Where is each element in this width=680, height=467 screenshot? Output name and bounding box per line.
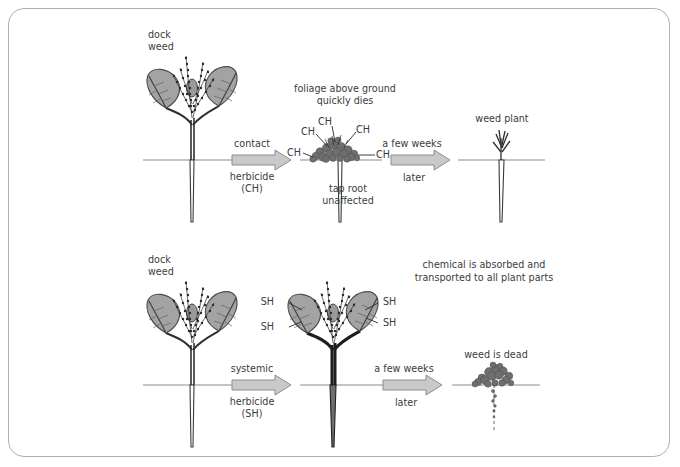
systemic-arrow-1 [232,375,291,395]
contact-stage-2-note-line2: unaffected [322,195,374,206]
contact-stage-3-caption-line1: weed plant [475,113,529,124]
tap-root [499,160,504,222]
contact-arrow-2-below: later [403,172,425,183]
figure-canvas: dock weed contact herbicide (CH) [0,0,680,467]
contact-arrow-1-below-2: (CH) [241,183,262,194]
contact-stage-2-plant [300,126,382,222]
systemic-stage-1-plant [143,281,243,447]
ch-label-top: CH [318,116,332,127]
systemic-arrow-1-above: systemic [231,363,274,374]
contact-arrow-1-above: contact [234,138,270,149]
contact-stage-2-note-line1: tap root [329,183,367,194]
tap-root [190,385,194,447]
contact-stage-1-plant [143,56,243,222]
branch-left [166,108,192,125]
contact-arrow-1 [232,150,291,170]
dead-weed-clump [472,362,514,387]
shrivelled-root [491,385,496,432]
systemic-stage-3-plant [452,362,540,432]
tap-root-treated [330,385,336,447]
sh-label-right-lower: SH [383,317,396,328]
ch-label-upper-right: CH [356,124,370,135]
tap-root [190,160,194,222]
systemic-stage-2-caption-line1: chemical is absorbed and [423,259,546,270]
systemic-arrow-2 [383,375,442,395]
contact-arrow-1-below-1: herbicide [230,171,275,182]
contact-stage-2-caption-line1: foliage above ground [294,83,396,94]
sh-label-left-lower: SH [261,321,274,332]
systemic-stage-3-caption: weed is dead [464,349,527,360]
contact-arrow-2 [391,150,450,170]
sh-label-right-upper: SH [383,296,396,307]
systemic-arrow-2-below: later [395,397,417,408]
systemic-stage-1-caption-line1: dock [148,254,171,265]
systemic-stage-1-caption-line2: weed [148,266,174,277]
branch-right [193,106,219,125]
ch-label-left: CH [287,147,301,158]
systemic-stage-2-caption-line2: transported to all plant parts [415,272,554,283]
new-shoots [493,130,510,160]
contact-stage-3-plant [458,130,545,222]
systemic-arrow-1-below-2: (SH) [242,408,263,419]
contact-stage-1-caption-line1: dock [148,29,171,40]
systemic-arrow-1-below-1: herbicide [230,396,275,407]
sh-label-left-upper: SH [261,296,274,307]
systemic-arrow-2-above: a few weeks [374,363,433,374]
herbicide-diagram: dock weed contact herbicide (CH) [0,0,680,467]
contact-stage-2-caption-line2: quickly dies [317,95,374,106]
contact-stage-1-caption-line2: weed [148,41,174,52]
contact-arrow-2-above: a few weeks [382,138,441,149]
ch-label-upper-left: CH [301,126,315,137]
ch-label-right: CH [376,149,390,160]
